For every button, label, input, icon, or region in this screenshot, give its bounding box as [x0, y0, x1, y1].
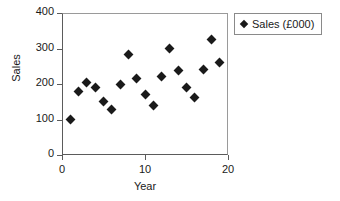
data-point [65, 114, 75, 124]
legend-entry-label: Sales (£000) [252, 18, 314, 30]
data-point [74, 86, 84, 96]
y-tick-label: 0 [20, 147, 54, 159]
plot-area: 0100200300400 01020 [62, 13, 228, 155]
data-point [132, 74, 142, 84]
data-point [115, 79, 125, 89]
data-point [182, 83, 192, 93]
data-point [173, 66, 183, 76]
x-axis-title: Year [62, 180, 228, 192]
data-point [190, 92, 200, 102]
x-tick-mark [145, 155, 146, 160]
data-point [99, 96, 109, 106]
y-tick-mark [57, 49, 62, 50]
y-tick-mark [57, 120, 62, 121]
y-tick-label: 300 [20, 41, 54, 53]
y-tick-mark [57, 84, 62, 85]
data-point [215, 57, 225, 67]
x-tick-mark [62, 155, 63, 160]
data-point [165, 44, 175, 54]
diamond-marker-icon [240, 20, 248, 28]
y-tick-label: 200 [20, 76, 54, 88]
chart-legend: Sales (£000) [234, 13, 322, 35]
data-point [157, 72, 167, 82]
scatter-chart: Sales 0100200300400 01020 Year Sales (£0… [0, 0, 340, 201]
data-point [140, 90, 150, 100]
y-tick-label: 100 [20, 112, 54, 124]
data-point [198, 64, 208, 74]
data-point [123, 50, 133, 60]
x-tick-label: 20 [211, 163, 245, 175]
x-tick-label: 10 [128, 163, 162, 175]
x-tick-mark [228, 155, 229, 160]
data-point [90, 83, 100, 93]
y-tick-mark [57, 13, 62, 14]
x-tick-label: 0 [45, 163, 79, 175]
data-point [107, 105, 117, 115]
y-tick-label: 400 [20, 5, 54, 17]
data-point [148, 100, 158, 110]
data-point [206, 34, 216, 44]
